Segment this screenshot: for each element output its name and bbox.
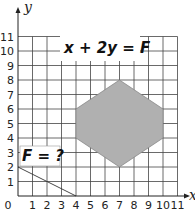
x-tick-label: 5 [87,199,94,211]
x-tick-label: 9 [145,199,152,211]
x-tick-label: 1 [29,199,36,211]
y-tick-label: 1 [7,176,14,189]
x-tick-label: 4 [73,199,80,211]
y-tick-label: 6 [7,103,14,116]
x-tick-label: 11 [171,199,185,211]
y-tick-label: 7 [7,89,14,102]
y-tick-label: 3 [7,147,14,160]
y-tick-label: 5 [7,118,14,131]
x-tick-labels: 01234567891011 [5,199,185,211]
x-tick-label: 6 [102,199,109,211]
x-tick-label: 0 [5,199,12,211]
y-axis-label: y [23,0,33,15]
y-tick-label: 11 [0,31,14,44]
y-tick-label: 10 [0,45,14,58]
x-tick-label: 8 [131,199,138,211]
x-tick-label: 7 [116,199,123,211]
y-tick-label: 4 [7,132,14,145]
y-tick-label: 2 [7,161,14,174]
y-tick-label: 9 [7,60,14,73]
x-tick-label: 3 [58,199,65,211]
y-tick-label: 8 [7,74,14,87]
y-axis-arrow-icon [16,7,21,13]
x-tick-label: 10 [156,199,170,211]
equation-label: x + 2y = F [63,39,151,57]
question-label: F = ? [22,147,64,165]
feasible-region-hexagon [76,80,163,167]
coordinate-plot: y x 01234567891011 1234567891011 x + 2y … [0,0,195,211]
y-tick-labels: 1234567891011 [0,31,14,189]
x-axis-label: x [189,187,195,203]
x-tick-label: 2 [44,199,51,211]
